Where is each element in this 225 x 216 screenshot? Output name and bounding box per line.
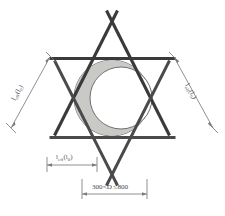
dimension-label-diameter: 300<D ≤800	[92, 183, 129, 191]
pipe-inner-circle	[90, 67, 152, 129]
figure-root: leff(l0) leff(l0) leff(l0)	[0, 0, 225, 216]
hexagram-diagram: leff(l0) leff(l0) leff(l0)	[0, 0, 225, 216]
